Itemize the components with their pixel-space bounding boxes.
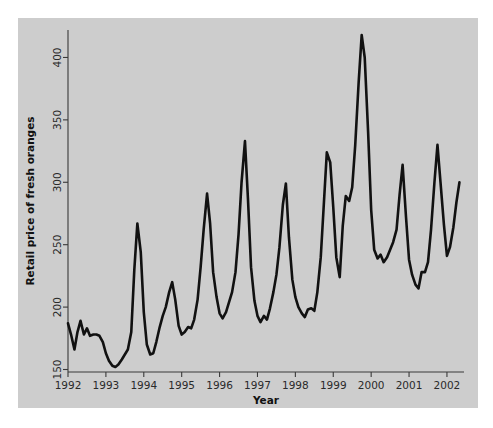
x-tick-label: 1995	[168, 379, 195, 391]
x-tick-label: 1997	[244, 379, 271, 391]
y-tick-label: 150	[51, 359, 63, 379]
chart-plot-area: 150200250300350400 199219931994199519961…	[0, 0, 493, 428]
y-axis-title: Retail price of fresh oranges	[24, 117, 36, 286]
series-line-retail-price	[68, 35, 459, 367]
x-axis: 1992199319941995199619971998199920002001…	[55, 372, 464, 391]
x-tick-label: 2002	[434, 379, 461, 391]
x-axis-title: Year	[252, 394, 280, 406]
chart-svg: 150200250300350400 199219931994199519961…	[0, 0, 493, 428]
x-tick-label: 1994	[130, 379, 157, 391]
y-tick-label: 400	[51, 47, 63, 67]
y-tick-label: 300	[51, 172, 63, 192]
x-tick-label: 1996	[206, 379, 233, 391]
x-tick-label: 2000	[358, 379, 385, 391]
y-tick-label: 350	[51, 110, 63, 130]
chart-figure: 150200250300350400 199219931994199519961…	[0, 0, 493, 428]
x-tick-label: 2001	[396, 379, 423, 391]
x-tick-label: 1998	[282, 379, 309, 391]
y-tick-group: 150200250300350400	[51, 47, 68, 379]
x-tick-label: 1993	[93, 379, 120, 391]
y-axis: 150200250300350400	[51, 30, 68, 380]
x-tick-label: 1992	[55, 379, 82, 391]
x-tick-label: 1999	[320, 379, 347, 391]
y-tick-label: 250	[51, 235, 63, 255]
x-tick-group: 1992199319941995199619971998199920002001…	[55, 372, 461, 391]
y-tick-label: 200	[51, 297, 63, 317]
